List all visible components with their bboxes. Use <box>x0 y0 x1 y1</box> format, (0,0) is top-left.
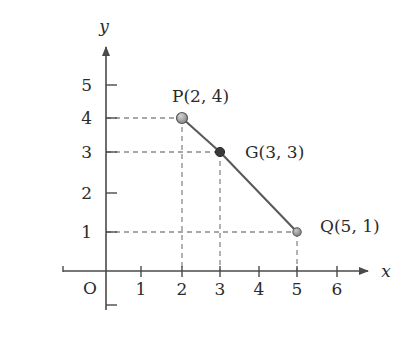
point-marker-p <box>177 113 188 124</box>
point-label-q: Q(5, 1) <box>320 216 380 236</box>
y-axis-ticks-group <box>106 85 117 305</box>
x-tick-label-2: 2 <box>177 279 188 299</box>
segment-pq <box>182 118 297 232</box>
x-tick-label-4: 4 <box>254 279 265 299</box>
y-tick-label-2: 2 <box>81 183 92 203</box>
x-tick-label-1: 1 <box>136 279 147 299</box>
y-tick-label-3: 3 <box>81 142 92 162</box>
y-axis-label: y <box>98 16 109 36</box>
plot-canvas: 1 2 3 4 5 6 1 2 3 4 5 O x y P(2, 4) G(3,… <box>0 0 420 337</box>
point-marker-g <box>215 147 224 156</box>
x-tick-label-3: 3 <box>215 279 226 299</box>
y-tick-label-5: 5 <box>81 75 92 95</box>
guide-lines-group <box>106 118 297 271</box>
point-marker-q <box>293 228 301 236</box>
point-label-p: P(2, 4) <box>172 86 229 106</box>
origin-label: O <box>83 278 97 298</box>
point-label-g: G(3, 3) <box>245 142 304 162</box>
x-tick-label-5: 5 <box>292 279 303 299</box>
x-axis-label: x <box>381 261 391 281</box>
x-tick-label-6: 6 <box>332 279 343 299</box>
y-tick-label-4: 4 <box>81 108 92 128</box>
coordinate-plane-figure: 1 2 3 4 5 6 1 2 3 4 5 O x y P(2, 4) G(3,… <box>0 0 420 337</box>
y-tick-label-1: 1 <box>81 222 92 242</box>
